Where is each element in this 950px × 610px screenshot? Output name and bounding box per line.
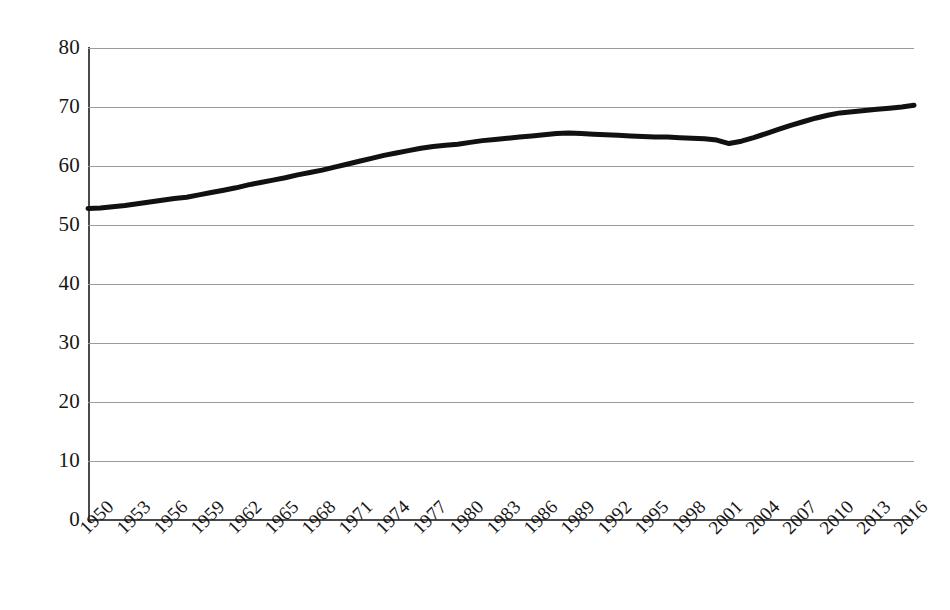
- line-chart: 80706050403020100 1950195319561959196219…: [0, 0, 950, 610]
- y-tick-label: 60: [32, 155, 80, 176]
- y-tick-label: 80: [32, 37, 80, 58]
- y-tick-label: 40: [32, 273, 80, 294]
- y-tick-label: 70: [32, 96, 80, 117]
- y-tick-label: 50: [32, 214, 80, 235]
- y-tick-label: 20: [32, 391, 80, 412]
- plot-area: [88, 48, 914, 520]
- series-polyline: [88, 105, 914, 208]
- y-axis: 80706050403020100: [30, 0, 80, 610]
- y-tick-label: 10: [32, 450, 80, 471]
- y-tick-label: 30: [32, 332, 80, 353]
- x-axis: 1950195319561959196219651968197119741977…: [0, 524, 950, 610]
- data-series-line: [88, 48, 914, 520]
